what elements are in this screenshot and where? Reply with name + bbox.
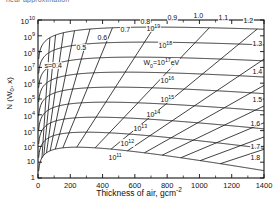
age-curve-label: 1.6 xyxy=(250,120,261,127)
age-curve-label: 0.8 xyxy=(140,18,151,25)
y-tick-label: 102 xyxy=(24,141,35,152)
annot-exponent: 14 xyxy=(154,109,160,115)
y-axis-title-tail: , x) xyxy=(5,77,14,88)
energy-curve-label: 1016 xyxy=(160,76,175,84)
x-axis-title-exponent: -2 xyxy=(176,186,182,193)
energy-curve-label: 1013 xyxy=(133,124,148,132)
age-label-text: 1.3 xyxy=(253,40,263,47)
age-label-text: 1.4 xyxy=(253,68,263,75)
energy-curve-label: 1014 xyxy=(146,110,161,118)
age-curve-label: 1.1 xyxy=(218,14,229,21)
age-label-text: 0.8 xyxy=(141,18,151,25)
y-tick-label: 107 xyxy=(24,62,35,73)
y-tick-base: 10 xyxy=(24,64,32,73)
age-curve-label: 1.4 xyxy=(252,68,263,75)
age-label-text: 0.9 xyxy=(168,14,178,21)
y-tick-base: 10 xyxy=(24,48,32,57)
y-axis-title: N (W0, x) xyxy=(5,61,16,125)
y-tick-base: 10 xyxy=(24,143,32,152)
y-tick-base: 10 xyxy=(27,157,35,166)
y-tick-exponent: 6 xyxy=(32,78,35,84)
age-curve-label: 1.3 xyxy=(252,40,263,47)
annot-exponent: 12 xyxy=(128,138,134,144)
x-axis-title-text: Thickness of air, gcm xyxy=(96,188,176,198)
x-axis-title: Thickness of air, gcm-2 xyxy=(0,186,278,198)
age-label-text: 1.1 xyxy=(219,14,229,21)
y-tick-label: 10 xyxy=(27,157,35,166)
age-curve-label: 1.0 xyxy=(193,12,204,19)
annot-exponent: 18 xyxy=(166,40,172,46)
age-label-text: 1.5 xyxy=(253,96,263,103)
y-tick-base: 10 xyxy=(24,127,32,136)
age-label-text: 0.6 xyxy=(98,34,108,41)
age-label-text: 0.7 xyxy=(121,26,131,33)
w0-unit: eV xyxy=(171,59,180,66)
y-tick-base: 10 xyxy=(24,111,32,120)
y-tick-exponent: 5 xyxy=(32,94,35,100)
y-tick-label: 106 xyxy=(24,78,35,89)
age-curve-label: 1.5 xyxy=(252,96,263,103)
y-tick-label: 104 xyxy=(24,110,35,121)
y-tick-label: 103 xyxy=(24,126,35,137)
age-curve-label: 0.7 xyxy=(120,26,131,33)
age-label-text: 1.0 xyxy=(194,12,204,19)
y-tick-base: 10 xyxy=(24,96,32,105)
annot-exponent: 19 xyxy=(154,23,160,29)
energy-curve-label: 1015 xyxy=(160,95,175,103)
age-label-text: 1.8 xyxy=(251,154,261,161)
energy-curve-label: 1011 xyxy=(108,153,122,161)
energy-curve-label: 1018 xyxy=(158,41,173,49)
age-curve-label: 0.9 xyxy=(167,14,178,21)
y-tick-label: 105 xyxy=(24,94,35,105)
age-curve-label: 1.2 xyxy=(243,17,254,24)
energy-curve-label: 1019 xyxy=(146,24,161,32)
annot-exponent: 11 xyxy=(116,152,121,158)
y-tick-label: 108 xyxy=(24,47,35,58)
cascade-curves-svg xyxy=(0,0,278,203)
y-tick-label: 109 xyxy=(24,31,35,42)
age-curve-label: 0.6 xyxy=(97,34,108,41)
age-curve-label: 1.7 xyxy=(250,143,261,150)
y-tick-label: 1010 xyxy=(21,15,35,26)
annot-exponent: 13 xyxy=(141,123,147,129)
age-curve-label: 0.5 xyxy=(76,44,87,51)
y-tick-exponent: 4 xyxy=(32,110,35,116)
y-tick-exponent: 7 xyxy=(32,62,35,68)
w0-series-label: W0=1017eV xyxy=(143,58,180,69)
figure-root: near approximation 110102103104105106107… xyxy=(0,0,278,203)
y-tick-base: 10 xyxy=(24,80,32,89)
age-label-text: 1.7 xyxy=(251,143,261,150)
y-tick-exponent: 2 xyxy=(32,141,35,147)
age-label-text: s=0.4 xyxy=(45,62,62,69)
annot-exponent: 15 xyxy=(168,94,174,100)
y-tick-exponent: 9 xyxy=(32,31,35,37)
y-axis-title-sub: 0 xyxy=(9,88,15,91)
age-label-text: 0.5 xyxy=(77,44,87,51)
chart-plot-area xyxy=(0,0,278,203)
w0-eq: =10 xyxy=(153,59,165,66)
y-axis-title-text: N (W xyxy=(5,91,14,109)
age-curve-label: s=0.4 xyxy=(44,62,62,69)
y-tick-base: 10 xyxy=(24,32,32,41)
y-tick-exponent: 8 xyxy=(32,47,35,53)
annot-exponent: 16 xyxy=(168,75,174,81)
age-label-text: 1.2 xyxy=(244,17,254,24)
y-tick-exponent: 3 xyxy=(32,126,35,132)
y-tick-exponent: 10 xyxy=(29,15,35,21)
y-tick-base: 10 xyxy=(21,17,29,26)
age-curve-label: 1.8 xyxy=(250,154,261,161)
energy-curve-label: 1012 xyxy=(120,139,135,147)
age-label-text: 1.6 xyxy=(251,120,261,127)
